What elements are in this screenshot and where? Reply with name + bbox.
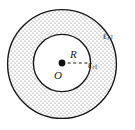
inner-permittivity-label: εr1: [87, 59, 98, 71]
concentric-spheres-diagram: [0, 0, 135, 130]
center-point-dot: [59, 60, 66, 67]
figure-container: R O εr1 εr2: [0, 0, 135, 130]
outer-permittivity-subscript: r2: [107, 33, 114, 41]
radius-label: R: [70, 49, 77, 60]
outer-permittivity-label: εr2: [102, 29, 113, 41]
center-point-label: O: [54, 70, 62, 81]
inner-permittivity-subscript: r1: [92, 62, 98, 70]
